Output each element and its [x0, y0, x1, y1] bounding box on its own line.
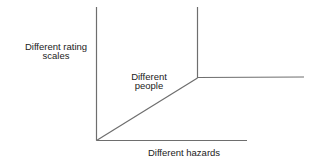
rating-scales-label: Different rating scales — [16, 42, 96, 60]
rating-scales-label-line2: scales — [16, 51, 96, 60]
people-label-line2: people — [119, 81, 179, 90]
people-label: Different people — [119, 72, 179, 90]
back-horizontal-line — [198, 77, 305, 78]
hazards-label: Different hazards — [140, 148, 228, 157]
hazards-label-line1: Different hazards — [140, 148, 228, 157]
